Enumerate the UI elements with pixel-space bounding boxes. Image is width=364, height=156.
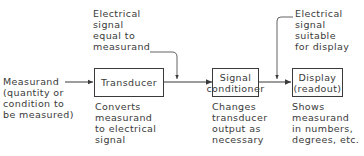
leader-line-annotation-2 <box>277 17 293 79</box>
transducer-block: Transducer <box>94 68 164 97</box>
signal-conditioner-block: Signal conditioner <box>212 68 259 97</box>
display-description: Shows measurand in numbers, degrees, etc… <box>292 101 359 145</box>
signal-conditioner-description: Changes transducer output as necessary <box>212 101 267 145</box>
annotation-signal-equal-to-measurand: Electrical signal equal to measurand <box>93 8 150 52</box>
annotation-signal-suitable-for-display: Electrical signal suitable for display <box>295 8 349 52</box>
display-block: Display (readout) <box>292 68 343 97</box>
input-measurand-label: Measurand (quantity or condition to be m… <box>3 76 74 120</box>
transducer-description: Converts measurand to electrical signal <box>95 101 156 145</box>
